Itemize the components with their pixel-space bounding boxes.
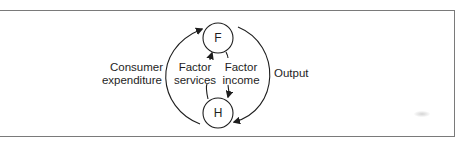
firms-node-label: F — [208, 31, 228, 45]
factor-services-line2: services — [170, 74, 220, 87]
factor-services-line1: Factor — [170, 61, 220, 74]
factor-income-label: Factor income — [219, 61, 263, 87]
output-label: Output — [274, 67, 309, 80]
factor-services-label: Factor services — [170, 61, 220, 87]
scan-artifact — [414, 111, 430, 117]
consumer-expenditure-line2: expenditure — [92, 74, 162, 87]
factor-income-line1: Factor — [219, 61, 263, 74]
households-node-label: H — [208, 106, 228, 120]
consumer-expenditure-label: Consumer expenditure — [110, 61, 162, 87]
factor-income-line2: income — [219, 74, 263, 87]
consumer-expenditure-line1: Consumer — [110, 61, 162, 74]
